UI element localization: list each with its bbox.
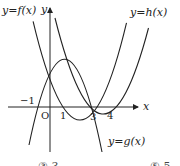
curve-g (29, 59, 102, 152)
label-y-axis: y (40, 3, 48, 16)
label-h: y=h(x) (129, 6, 167, 19)
answer-choice-right: ⑤ 5 (150, 160, 171, 166)
curve-f (33, 21, 126, 120)
tick-neg1: −1 (20, 95, 35, 106)
label-f: y=f(x) (1, 4, 36, 17)
tick-3: 3 (90, 111, 96, 122)
function-graph: y=f(x) y=h(x) y=g(x) y x −1 O 1 3 4 ③ 3 … (0, 0, 180, 166)
tick-1: 1 (60, 110, 66, 121)
label-x-axis: x (143, 100, 150, 113)
tick-4: 4 (107, 110, 113, 121)
answer-choice-left: ③ 3 (38, 160, 59, 166)
label-origin: O (41, 110, 49, 121)
label-g: y=g(x) (107, 135, 145, 148)
